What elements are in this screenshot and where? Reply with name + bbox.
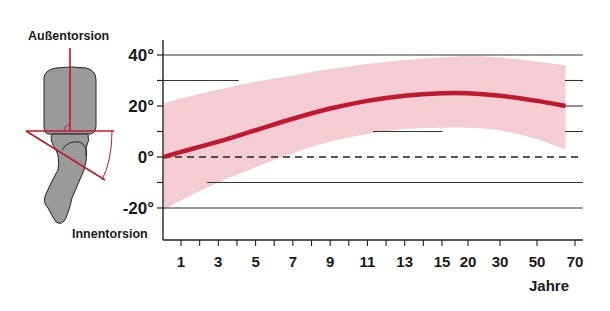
x-tick-label: 13 — [396, 253, 413, 270]
x-tick-label: 7 — [289, 253, 297, 270]
normal-range-band-layer — [164, 56, 566, 210]
chart-root: 40°20°0°-20°1357911131520305070 Außentor… — [0, 0, 610, 311]
y-bottom-label: Innentorsion — [72, 227, 148, 241]
x-tick-label: 30 — [492, 253, 509, 270]
x-axis-title: Jahre — [529, 277, 569, 294]
x-tick-label: 9 — [326, 253, 334, 270]
torsion-angle-arc — [102, 131, 112, 180]
x-tick-label: 3 — [214, 253, 222, 270]
x-tick-label: 5 — [251, 253, 259, 270]
x-tick-label: 15 — [434, 253, 451, 270]
x-tick-label: 1 — [177, 253, 185, 270]
x-tick-label: 70 — [567, 253, 584, 270]
x-tick-label: 20 — [460, 253, 477, 270]
normal-range-band — [164, 56, 566, 210]
y-top-label: Außentorsion — [28, 29, 109, 43]
x-tick-label: 11 — [359, 253, 375, 270]
x-tick-label: 50 — [529, 253, 546, 270]
y-tick-label: 20° — [128, 97, 154, 116]
y-tick-label: 0° — [138, 148, 154, 167]
y-tick-label: -20° — [123, 199, 155, 218]
y-tick-label: 40° — [128, 46, 154, 65]
foot-torsion-illustration — [26, 48, 114, 223]
